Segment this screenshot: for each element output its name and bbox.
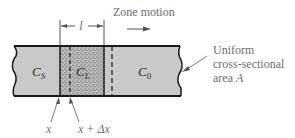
position-label-x: x <box>45 122 52 136</box>
callout-line-3: area A <box>213 71 244 85</box>
x-pointer-arrowhead-icon <box>56 97 60 104</box>
callout-line-1: Uniform <box>213 43 255 57</box>
zone-motion-label: Zone motion <box>113 5 175 19</box>
x-plus-dx-pointer-arrowhead-icon <box>69 97 73 104</box>
callout-line-2: cross-sectional <box>213 57 285 71</box>
dimension-arrowhead-left <box>61 24 67 28</box>
zone-refining-diagram: l Zone motion CS CL C0 Uniform cross-sec… <box>0 0 295 138</box>
zone-motion-arrow-icon <box>143 27 151 32</box>
x-plus-dx-pointer-line <box>71 100 79 122</box>
zone-width-label: l <box>79 19 83 33</box>
callout-arrowhead-icon <box>182 66 190 72</box>
callout-leader-line <box>186 56 207 70</box>
dimension-arrowhead-right <box>97 24 103 28</box>
position-label-x-plus-dx: x + Δx <box>77 122 110 136</box>
